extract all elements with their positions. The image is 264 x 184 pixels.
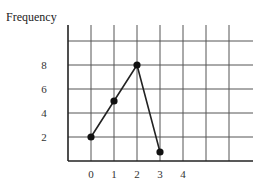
y-tick-label: 2: [41, 131, 47, 143]
data-point-marker: [87, 133, 94, 140]
grid: [68, 25, 253, 161]
x-tick-label: 3: [157, 168, 163, 180]
x-tick-label: 0: [88, 168, 94, 180]
x-tick-label: 2: [134, 168, 140, 180]
y-tick-label: 6: [41, 83, 47, 95]
frequency-line-chart: 012342468: [0, 0, 264, 184]
data-point-marker: [156, 148, 163, 155]
data-point-marker: [133, 61, 140, 68]
y-tick-label: 4: [41, 107, 47, 119]
series-line: [91, 65, 160, 152]
x-tick-label: 4: [180, 168, 186, 180]
x-tick-label: 1: [111, 168, 117, 180]
y-tick-label: 8: [41, 59, 47, 71]
data-point-marker: [110, 97, 117, 104]
data-series: [87, 61, 163, 155]
